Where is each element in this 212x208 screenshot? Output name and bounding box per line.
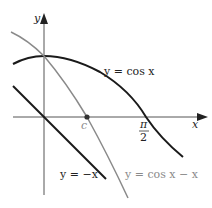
x-axis-arrow-icon xyxy=(197,113,208,121)
curve-cos-x xyxy=(13,56,183,157)
line-neg-x xyxy=(13,86,106,179)
label-c: c xyxy=(81,119,87,132)
label-pi: π xyxy=(139,118,148,131)
function-graph: c π 2 x y y = cos x y = −x y = cos x − x xyxy=(0,0,212,208)
label-two: 2 xyxy=(140,131,147,144)
y-axis-label: y xyxy=(33,12,41,25)
y-axis-arrow-icon xyxy=(40,13,48,24)
label-neg-x: y = −x xyxy=(59,168,99,181)
label-cos-x-minus-x: y = cos x − x xyxy=(124,168,199,181)
label-cos-x: y = cos x xyxy=(103,65,155,78)
x-axis-label: x xyxy=(192,118,199,131)
